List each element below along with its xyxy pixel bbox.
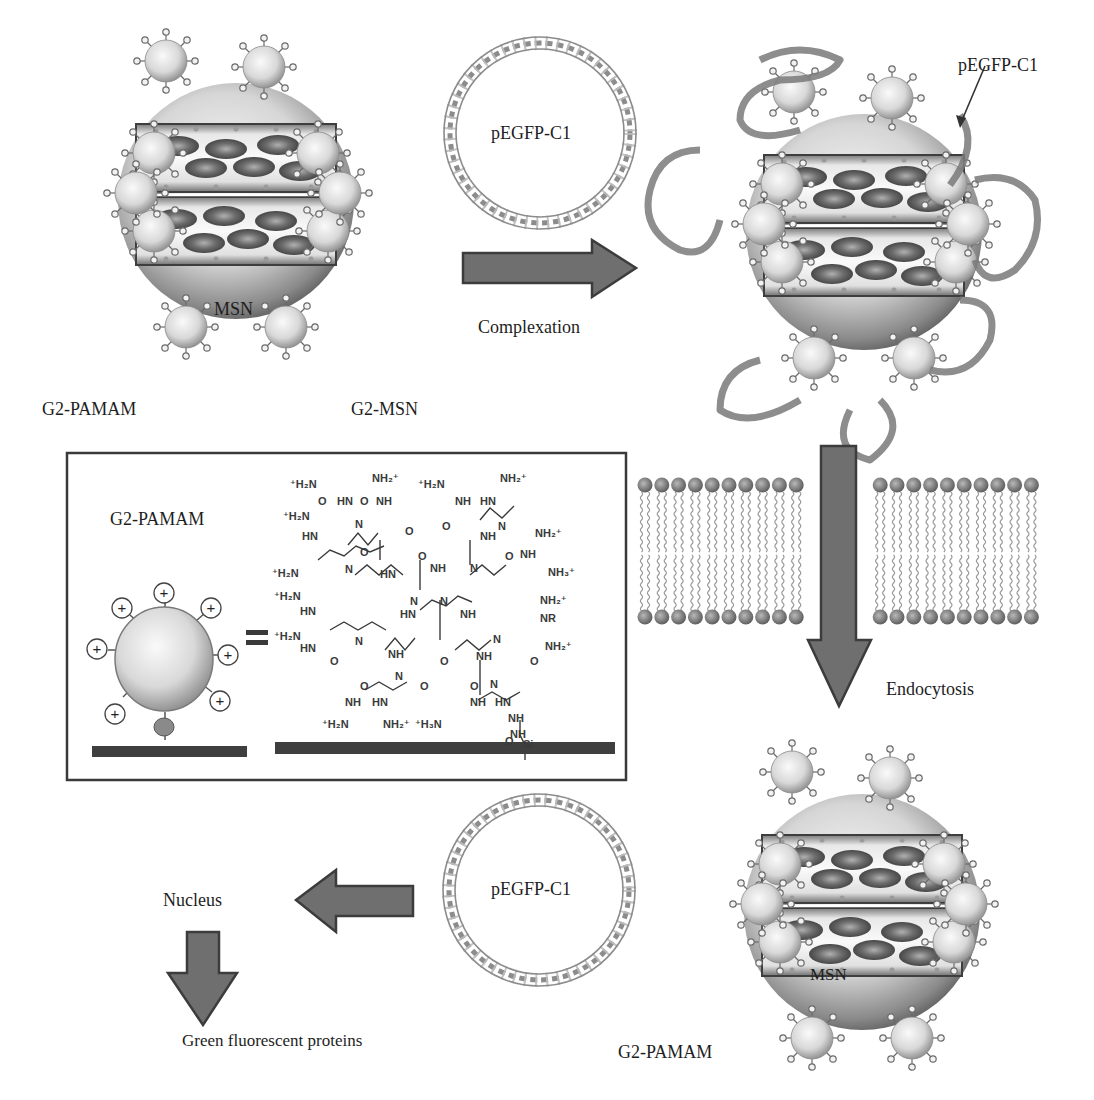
msn-core-label-top: MSN [214, 300, 253, 318]
gfp-label: Green fluorescent proteins [182, 1032, 362, 1049]
g2-pamam-label-bottom: G2-PAMAM [618, 1043, 712, 1061]
g2-pamam-label-top: G2-PAMAM [42, 400, 136, 418]
endocytosis-label: Endocytosis [886, 680, 974, 698]
g2-msn-label: G2-MSN [351, 400, 418, 418]
plasmid-callout-label: pEGFP-C1 [958, 56, 1038, 74]
nucleus-label: Nucleus [163, 891, 222, 909]
complexation-label: Complexation [478, 318, 580, 336]
plasmid-label-bottom: pEGFP-C1 [491, 880, 571, 898]
msn-core-label-bottom: MSN [810, 966, 847, 983]
plasmid-label-top: pEGFP-C1 [491, 124, 571, 142]
endocytosis-arrow-layer [0, 0, 1094, 1100]
g2-msn-gene-delivery-diagram: +++ ++++ [0, 0, 1094, 1100]
endocytosis-arrow [808, 446, 871, 706]
inset-title: G2-PAMAM [110, 510, 204, 528]
